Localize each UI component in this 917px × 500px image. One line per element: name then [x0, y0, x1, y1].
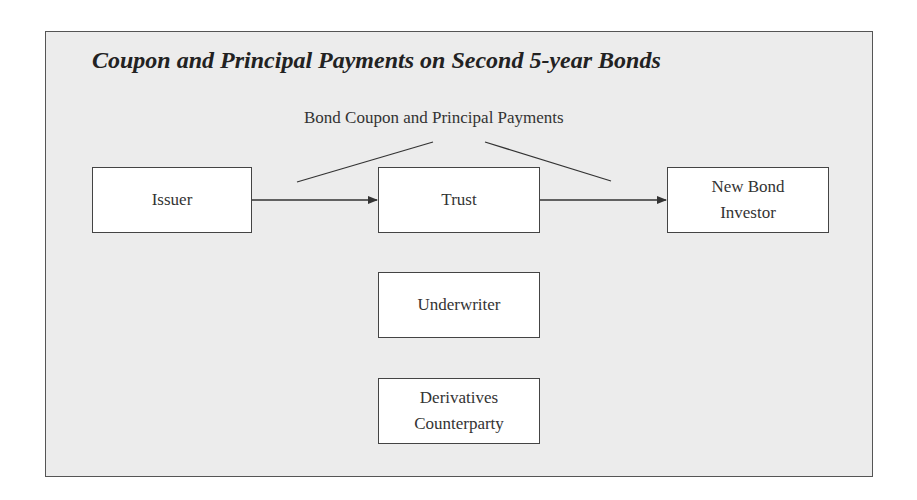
node-investor-label-line2: Investor [720, 200, 776, 226]
node-derivatives-counterparty: Derivatives Counterparty [378, 378, 540, 444]
node-derivatives-label-line1: Derivatives [420, 385, 498, 411]
node-new-bond-investor: New Bond Investor [667, 167, 829, 233]
node-trust-label: Trust [441, 187, 476, 213]
node-underwriter-label: Underwriter [417, 292, 500, 318]
node-issuer-label: Issuer [152, 187, 193, 213]
node-investor-label-line1: New Bond [711, 174, 784, 200]
node-underwriter: Underwriter [378, 272, 540, 338]
node-issuer: Issuer [92, 167, 252, 233]
node-derivatives-label-line2: Counterparty [414, 411, 504, 437]
node-trust: Trust [378, 167, 540, 233]
